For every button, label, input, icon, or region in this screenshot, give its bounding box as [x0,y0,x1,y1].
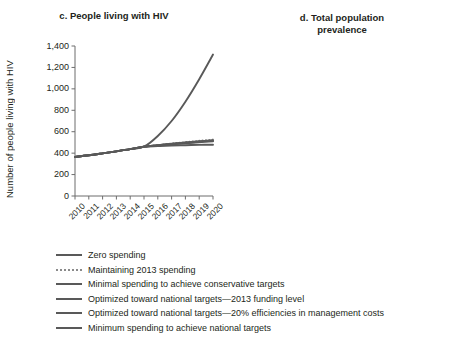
y-tick-label: 1,000 [23,84,69,93]
legend-line-swatch [56,308,82,318]
y-tick-label: 1,200 [23,63,69,72]
figure-container: c. People living with HIV Number of peop… [0,0,456,345]
legend-item-label: Minimum spending to achieve national tar… [88,323,271,333]
panel-c-title: c. People living with HIV [0,10,228,22]
panel-c-svg [75,46,213,196]
legend-item: Optimized toward national targets—2013 f… [56,292,456,307]
legend-line-swatch [56,279,82,289]
legend-line-swatch [56,294,82,304]
y-tick-label: 0 [23,192,69,201]
panel-c-plot-area [75,46,213,196]
legend-item-label: Zero spending [88,250,146,260]
legend-item-label: Optimized toward national targets—20% ef… [88,308,384,318]
chart-panel-d: d. Total population prevalence Total pop… [228,0,456,250]
legend-line-swatch [56,250,82,260]
panel-d-title: d. Total population prevalence [228,12,456,36]
chart-legend: Zero spendingMaintaining 2013 spendingMi… [56,248,456,335]
legend-item: Optimized toward national targets—20% ef… [56,306,456,321]
y-tick-label: 1,400 [23,42,69,51]
y-tick-label: 400 [23,149,69,158]
y-tick-label: 200 [23,170,69,179]
y-tick-label: 800 [23,106,69,115]
chart-panel-c: c. People living with HIV Number of peop… [0,0,228,250]
legend-item: Minimum spending to achieve national tar… [56,321,456,336]
panel-c-series-lines [75,55,213,157]
legend-line-swatch [56,265,82,275]
legend-item-label: Optimized toward national targets—2013 f… [88,294,304,304]
legend-line-swatch [56,323,82,333]
legend-item-label: Maintaining 2013 spending [88,265,196,275]
series-line [75,145,213,157]
legend-item-label: Minimal spending to achieve conservative… [88,279,285,289]
legend-item: Maintaining 2013 spending [56,263,456,278]
panel-d-title-line2: prevalence [228,24,456,36]
panel-c-y-axis-title: Number of people living with HIV [4,48,15,198]
legend-item: Zero spending [56,248,456,263]
panel-d-title-line1: d. Total population [228,12,456,24]
y-tick-label: 600 [23,127,69,136]
legend-item: Minimal spending to achieve conservative… [56,277,456,292]
panel-c-axes [72,46,214,200]
